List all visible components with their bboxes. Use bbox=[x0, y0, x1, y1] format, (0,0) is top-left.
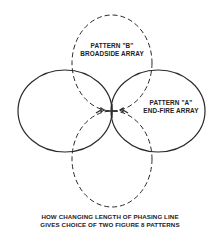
pattern-b-title: PATTERN "B" bbox=[76, 42, 148, 50]
pattern-a-label: PATTERN "A" END-FIRE ARRAY bbox=[138, 99, 204, 115]
caption-line-1: HOW CHANGING LENGTH OF PHASING LINE bbox=[30, 213, 190, 221]
caption-line-2: GIVES CHOICE OF TWO FIGURE 8 PATTERNS bbox=[30, 221, 190, 229]
pattern-b-subtitle: BROADSIDE ARRAY bbox=[76, 50, 148, 58]
antenna-elements-icon bbox=[96, 104, 128, 118]
pattern-b-label: PATTERN "B" BROADSIDE ARRAY bbox=[76, 42, 148, 58]
pattern-b-bottom-lobe bbox=[72, 111, 152, 207]
pattern-b-top-lobe bbox=[72, 15, 152, 111]
pattern-a-subtitle: END-FIRE ARRAY bbox=[138, 107, 204, 115]
pattern-a-title: PATTERN "A" bbox=[138, 99, 204, 107]
pattern-a-left-lobe bbox=[18, 70, 112, 152]
figure-caption: HOW CHANGING LENGTH OF PHASING LINE GIVE… bbox=[30, 213, 190, 229]
figure-8-pattern-diagram bbox=[0, 0, 218, 233]
